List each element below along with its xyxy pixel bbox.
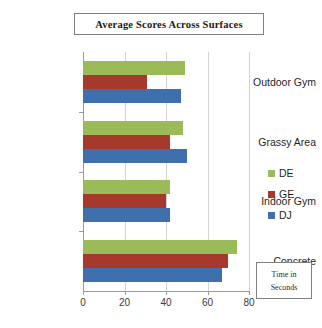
bar — [83, 194, 166, 208]
x-axis-tick — [208, 291, 209, 295]
x-axis-tick-label: 0 — [80, 297, 86, 308]
bar — [83, 254, 228, 268]
x-axis-tick — [249, 291, 250, 295]
chart-title: Average Scores Across Surfaces — [95, 19, 242, 30]
y-axis-category-label: Grassy Area — [258, 136, 316, 148]
bar — [83, 149, 187, 163]
x-axis-tick-label: 40 — [160, 297, 171, 308]
legend-label: DE — [279, 168, 294, 179]
legend-label: DJ — [279, 210, 292, 221]
axis-note-box: Time in Seconds — [256, 262, 312, 299]
axis-note-line-1: Time in — [272, 268, 297, 281]
legend-item: DJ — [268, 205, 294, 226]
x-axis-tick — [166, 291, 167, 295]
bar — [83, 240, 237, 254]
bar — [83, 121, 183, 135]
legend-swatch-icon — [268, 170, 275, 177]
bar — [83, 61, 185, 75]
legend-label: GE — [279, 189, 294, 200]
y-axis-tick — [79, 172, 83, 173]
x-axis-tick — [83, 291, 84, 295]
x-axis-tick-label: 80 — [243, 297, 254, 308]
bar — [83, 135, 170, 149]
gridline — [249, 52, 250, 291]
chart-container: Average Scores Across Surfaces 020406080… — [0, 0, 322, 328]
bar — [83, 268, 222, 282]
bar — [83, 89, 181, 103]
bar — [83, 208, 170, 222]
bar — [83, 75, 147, 89]
y-axis-tick — [79, 231, 83, 232]
legend-swatch-icon — [268, 212, 275, 219]
bar — [83, 180, 170, 194]
chart-title-box: Average Scores Across Surfaces — [74, 13, 264, 35]
axis-note-line-2: Seconds — [271, 281, 298, 294]
x-axis-tick — [125, 291, 126, 295]
legend-swatch-icon — [268, 191, 275, 198]
y-axis-category-label: Outdoor Gym — [253, 76, 316, 88]
chart-legend: DEGEDJ — [268, 163, 294, 226]
x-axis-tick-label: 60 — [202, 297, 213, 308]
y-axis-tick — [79, 112, 83, 113]
legend-item: GE — [268, 184, 294, 205]
legend-item: DE — [268, 163, 294, 184]
plot-area — [83, 52, 249, 291]
x-axis-tick-label: 20 — [119, 297, 130, 308]
